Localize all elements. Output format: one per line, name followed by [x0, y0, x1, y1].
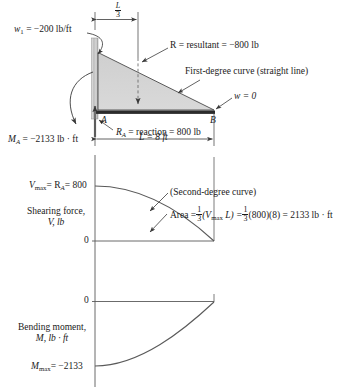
moment-axis-title: Bending moment, M, lb · ft — [12, 322, 92, 344]
vmax-equals-ra: = R — [47, 180, 61, 190]
w-zero-leader — [216, 98, 232, 109]
reaction-subscript: A — [122, 131, 126, 138]
shear-axis-title: Shearing force, V, lb — [20, 206, 92, 228]
first-degree-curve-leader — [178, 80, 200, 93]
second-degree-curve-label: (Second-degree curve) — [170, 187, 256, 198]
fixed-end-moment-symbol: M — [8, 134, 16, 144]
shear-area-mid: (V — [202, 210, 211, 220]
fixed-end-moment-subscript: A — [16, 138, 20, 145]
fixed-end-moment-arc — [70, 72, 93, 124]
fixed-end-moment-label: MA = −2133 lb · ft — [8, 134, 78, 145]
point-a-label: A — [101, 115, 107, 126]
shear-area-prefix: Area = — [170, 210, 196, 220]
shear-axis-title-line2: V, lb — [20, 217, 92, 228]
shear-area-label: Area = 1 3 (Vmax L) = 1 3 (800)(8) = 213… — [170, 207, 333, 224]
vmax-symbol: V — [29, 180, 35, 190]
moment-diagram — [92, 294, 214, 366]
shear-area-frac2-den: 3 — [242, 215, 248, 223]
beam-diagram-figure: w1 = −200 lb/ft L 3 R = resultant = −800… — [0, 0, 359, 387]
resultant-leader-line — [142, 48, 168, 62]
load-intensity-subscript: 1 — [20, 28, 23, 35]
vmax-ra-subscript: A — [61, 184, 65, 191]
dimension-third-denominator: 3 — [115, 11, 121, 19]
first-degree-curve-label: First-degree curve (straight line) — [185, 66, 308, 77]
vmax-label: Vmax= RA= 800 — [29, 180, 87, 191]
load-intensity-label: w1 = −200 lb/ft — [14, 24, 72, 35]
mmax-value: = −2133 — [51, 361, 83, 371]
span-length-label: L = 8 ft — [139, 132, 168, 143]
reaction-symbol: R — [116, 127, 122, 137]
mmax-label: Mmax= −2133 — [31, 361, 83, 372]
load-intensity-value: = −200 lb/ft — [26, 24, 72, 34]
shear-axis-title-line1: Shearing force, — [20, 206, 92, 217]
resultant-text: R = resultant = −800 lb — [170, 40, 259, 50]
point-b-label: B — [210, 115, 216, 126]
shear-zero-tick-label: 0 — [84, 235, 89, 246]
w-zero-text: w = 0 — [234, 91, 256, 101]
shear-area-mid-sub: max — [211, 214, 223, 221]
first-degree-curve-text: First-degree curve (straight line) — [185, 66, 308, 76]
moment-axis-title-line2: M, lb · ft — [12, 333, 92, 344]
shear-area-frac1-den: 3 — [196, 215, 202, 223]
triangular-load-region — [98, 53, 214, 111]
mmax-subscript: max — [39, 365, 51, 372]
vmax-number: = 800 — [65, 180, 87, 190]
shear-area-mid2: L) = — [223, 210, 243, 220]
w-zero-label: w = 0 — [234, 91, 256, 102]
span-length-text: L = 8 ft — [139, 132, 168, 142]
fixed-end-moment-value: = −2133 lb · ft — [22, 134, 78, 144]
vmax-subscript: max — [35, 184, 47, 191]
mmax-symbol: M — [31, 361, 39, 371]
beam-member — [96, 111, 215, 114]
moment-zero-tick-label: 0 — [84, 295, 89, 306]
second-degree-curve-text: (Second-degree curve) — [170, 187, 256, 197]
moment-axis-title-line1: Bending moment, — [12, 322, 92, 333]
resultant-label: R = resultant = −800 lb — [170, 40, 259, 51]
shear-area-tail: (800)(8) = 2133 lb · ft — [248, 210, 332, 220]
dimension-third-label: L 3 — [110, 3, 126, 20]
